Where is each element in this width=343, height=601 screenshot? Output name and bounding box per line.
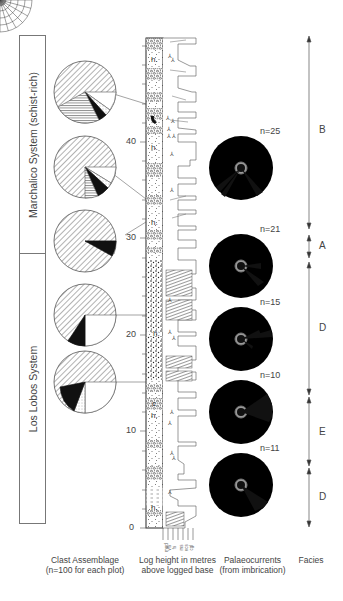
rose-2 xyxy=(209,234,273,298)
clast-pie-1 xyxy=(54,61,116,123)
grain-size-labels: mud vfs fs ms vcs cgl xyxy=(162,541,196,555)
svg-text:⅄: ⅄ xyxy=(171,133,176,139)
rose-n-label-2: n=21 xyxy=(260,224,280,234)
tick-label-0: 0 xyxy=(129,522,134,532)
facies-label-d-upper: D xyxy=(319,322,326,333)
rose-3 xyxy=(209,307,273,371)
svg-text:⅄: ⅄ xyxy=(167,489,172,495)
tick-label-10: 10 xyxy=(126,425,136,435)
svg-text:⅄: ⅄ xyxy=(165,115,170,121)
facies-arrows xyxy=(307,36,311,527)
svg-text:⅄: ⅄ xyxy=(167,297,172,303)
svg-text:⅄: ⅄ xyxy=(171,335,176,341)
rose-n-label-4: n=10 xyxy=(260,370,280,380)
caption-clast-assemblage: Clast Assemblage (n=100 for each plot) xyxy=(40,555,130,575)
clast-pie-3 xyxy=(54,210,116,272)
facies-label-e: E xyxy=(319,426,326,437)
svg-text:⅄: ⅄ xyxy=(169,187,174,193)
clast-pie-4 xyxy=(54,284,116,346)
caption-facies: Facies xyxy=(291,555,331,565)
caption-log-height: Log height in metres above logged base xyxy=(130,555,225,575)
svg-text:⅄: ⅄ xyxy=(167,420,172,426)
rose-n-label-5: n=11 xyxy=(260,443,280,453)
rose-diagrams xyxy=(0,0,32,32)
tick-label-30: 30 xyxy=(126,232,136,242)
svg-text:⅄: ⅄ xyxy=(170,118,175,124)
svg-text:⅄: ⅄ xyxy=(166,133,171,139)
caption-palaeocurrents: Palaeocurrents (from imbrication) xyxy=(215,555,290,575)
stratigraphic-figure: ⅄⅄ ⅄⅄ ⅄ ⅄⅄ ⅄ ⅄ ⅄ ⅄ ⅄ ⅄ ⅄ ⅄ ⅄ ⅄ xyxy=(0,0,343,601)
sedimentary-log: ⅄⅄ ⅄⅄ ⅄ ⅄⅄ ⅄ ⅄ ⅄ ⅄ ⅄ ⅄ ⅄ ⅄ ⅄ ⅄ xyxy=(140,38,196,540)
symbol-c: c xyxy=(152,399,156,408)
rose-4 xyxy=(209,380,273,444)
svg-text:⅄: ⅄ xyxy=(171,455,176,461)
facies-label-b: B xyxy=(319,124,326,135)
svg-text:⅄: ⅄ xyxy=(169,409,174,415)
facies-label-d-lower: D xyxy=(319,491,326,502)
symbol-h: h. xyxy=(151,218,158,227)
rose-n-label-1: n=25 xyxy=(260,126,280,136)
symbol-h: h. xyxy=(153,329,160,338)
tick-label-40: 40 xyxy=(126,136,136,146)
symbol-h: h. xyxy=(151,143,158,152)
clast-pie-5 xyxy=(54,351,116,413)
svg-text:⅄: ⅄ xyxy=(169,151,174,157)
symbol-h: h. xyxy=(151,503,158,512)
tick-label-20: 20 xyxy=(126,329,136,339)
rose-n-label-3: n=15 xyxy=(260,297,280,307)
rose-5 xyxy=(209,453,273,517)
facies-label-a: A xyxy=(319,240,326,251)
symbol-h: h. xyxy=(151,411,158,420)
rose-1 xyxy=(209,136,273,200)
symbol-h: h. xyxy=(151,55,158,64)
svg-text:⅄: ⅄ xyxy=(166,126,171,132)
clast-pie-2 xyxy=(54,136,116,198)
svg-text:⅄: ⅄ xyxy=(170,57,175,63)
